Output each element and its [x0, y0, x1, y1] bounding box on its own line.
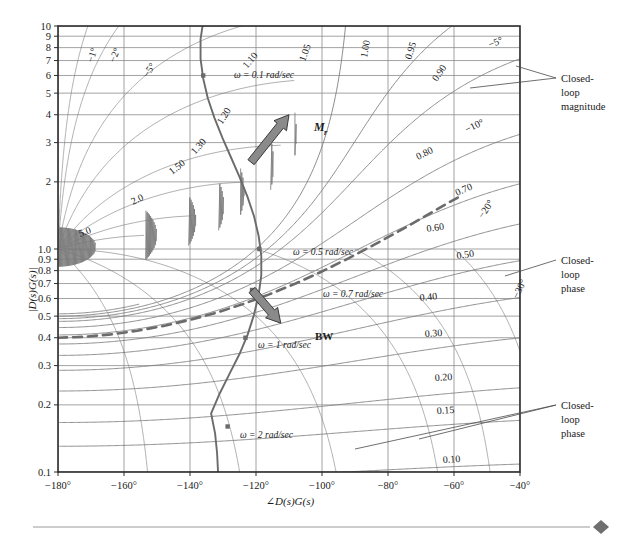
callout-line-2: loop: [561, 87, 580, 98]
nichols-chart-figure: 10987654321.00.90.80.70.60.50.40.30.20.1…: [0, 0, 633, 548]
x-tick-label: −100°: [309, 480, 335, 491]
y-tick-label: 0.6: [38, 293, 51, 304]
contour-label-mag-040: 0.40: [419, 290, 438, 303]
y-tick-label: 2: [46, 176, 51, 187]
marker-label-w01: ω = 0.1 rad/sec: [234, 70, 295, 80]
y-tick-label: 0.3: [38, 360, 51, 371]
nichols-chart-svg: 10987654321.00.90.80.70.60.50.40.30.20.1…: [0, 0, 633, 548]
y-tick-label: 0.1: [38, 467, 51, 478]
y-tick-label: 0.9: [38, 254, 51, 265]
x-axis-title: ∠D(s)G(s): [266, 495, 315, 508]
y-tick-label: 0.2: [38, 399, 51, 410]
y-tick-label: 0.7: [38, 278, 51, 289]
marker-label-w2: ω = 2 rad/sec: [240, 430, 294, 440]
x-tick-label: −40°: [510, 480, 531, 491]
marker-label-w07: ω = 0.7 rad/sec: [323, 289, 384, 299]
contour-label-mag-030: 0.30: [424, 327, 442, 339]
frequency-marker: [257, 247, 261, 251]
callout-line-2: loop: [561, 269, 580, 280]
y-tick-label: 7: [46, 55, 51, 66]
x-tick-label: −140°: [177, 480, 203, 491]
y-tick-label: 9: [46, 31, 51, 42]
x-tick-label: −180°: [45, 480, 71, 491]
callout-line-1: Closed-: [561, 73, 594, 84]
y-tick-label: 8: [46, 42, 51, 53]
x-tick-label: −120°: [243, 480, 269, 491]
y-axis-title: |D(s)G(s)|: [26, 267, 39, 312]
callout-line-1: Closed-: [561, 255, 594, 266]
y-tick-label: 3: [46, 137, 51, 148]
y-tick-label: 5: [46, 88, 51, 99]
y-tick-label: 6: [46, 70, 51, 81]
y-tick-label: 0.4: [38, 332, 52, 343]
marker-label-w1: ω = 1 rad/sec: [258, 340, 312, 350]
callout-line-3: magnitude: [561, 101, 606, 112]
x-tick-label: −80°: [378, 480, 399, 491]
annotation-bw-label: BW: [315, 330, 333, 342]
y-tick-label: 0.8: [38, 265, 51, 276]
contour-label-mag-015: 0.15: [436, 404, 454, 416]
callout-line-2: loop: [561, 414, 580, 425]
callout-line-1: Closed-: [561, 400, 594, 411]
frequency-marker: [225, 424, 229, 428]
marker-label-w05: ω = 0.5 rad/sec: [293, 247, 354, 257]
y-tick-label: 4: [46, 109, 52, 120]
callout-line-3: phase: [561, 283, 585, 294]
frequency-marker: [201, 73, 205, 77]
contour-label-mag-010: 0.10: [442, 453, 460, 465]
y-tick-label: 0.5: [38, 311, 51, 322]
page-background: [0, 0, 633, 548]
callout-line-3: phase: [561, 428, 585, 439]
contour-label-mag-020: 0.20: [434, 371, 452, 383]
x-tick-label: −160°: [111, 480, 137, 491]
frequency-marker: [243, 336, 247, 340]
x-tick-label: −60°: [444, 480, 465, 491]
